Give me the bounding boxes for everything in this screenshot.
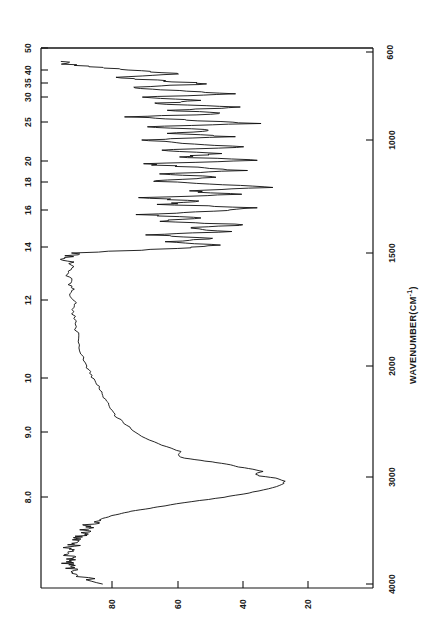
transmittance-tick-20: 20 xyxy=(303,599,313,609)
wavenumber-tick-1000: 1000 xyxy=(387,130,397,150)
plot-frame xyxy=(41,48,373,588)
wavelength-tick-25: 25 xyxy=(23,117,33,127)
spectrum-plot-canvas xyxy=(0,0,434,637)
ir-spectrum-figure: 50 40 35 30 25 20 18 16 14 12 10 9.0 8.0… xyxy=(0,0,434,637)
wavenumber-tick-4000: 4000 xyxy=(387,574,397,594)
wavenumber-tick-600: 600 xyxy=(385,45,395,60)
wavenumber-axis-title-exponent: -1 xyxy=(406,289,413,296)
wavenumber-tick-3000: 3000 xyxy=(387,467,397,487)
wavenumber-tick-marks xyxy=(366,52,373,584)
spectrum-trace xyxy=(60,61,285,584)
wavelength-tick-35: 35 xyxy=(23,78,33,88)
wavelength-tick-9: 9.0 xyxy=(23,426,33,438)
transmittance-tick-40: 40 xyxy=(238,599,248,609)
transmittance-tick-80: 80 xyxy=(107,599,117,609)
wavelength-tick-40: 40 xyxy=(23,65,33,75)
wavenumber-axis-title-main: WAVENUMBER(CM xyxy=(408,296,418,384)
wavenumber-tick-2000: 2000 xyxy=(387,356,397,376)
wavenumber-tick-1500: 1500 xyxy=(387,243,397,263)
transmittance-tick-marks xyxy=(112,581,308,588)
wavelength-tick-50: 50 xyxy=(23,43,33,53)
wavelength-tick-8: 8.0 xyxy=(23,491,33,503)
wavelength-tick-30: 30 xyxy=(23,92,33,102)
wavelength-tick-18: 18 xyxy=(23,177,33,187)
wavelength-tick-12: 12 xyxy=(23,295,33,305)
wavelength-tick-14: 14 xyxy=(23,242,33,252)
wavenumber-axis-title-tail: ) xyxy=(408,286,418,289)
wavelength-tick-20: 20 xyxy=(23,156,33,166)
wavenumber-axis-title: WAVENUMBER(CM-1) xyxy=(406,286,418,384)
wavelength-tick-marks xyxy=(41,48,48,497)
transmittance-tick-60: 60 xyxy=(173,599,183,609)
wavelength-tick-16: 16 xyxy=(23,205,33,215)
wavelength-tick-10: 10 xyxy=(23,373,33,383)
